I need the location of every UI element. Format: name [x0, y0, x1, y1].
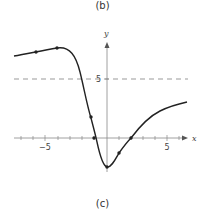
y-axis-arrow-icon: [105, 42, 110, 48]
point: [105, 165, 108, 168]
x-tick-label-5: 5: [164, 143, 169, 152]
point: [89, 115, 92, 118]
point: [117, 151, 120, 154]
point: [129, 136, 132, 139]
point: [92, 136, 95, 139]
x-tick-label-neg5: −5: [39, 143, 51, 152]
point: [55, 46, 58, 49]
y-tick-label-5: 5: [96, 75, 101, 84]
y-axis-label: y: [103, 29, 109, 38]
x-axis-arrow-icon: [182, 136, 188, 141]
point: [34, 50, 37, 53]
caption-bottom: (c): [0, 198, 205, 209]
x-axis-label: x: [192, 134, 197, 143]
chart: −5 5 5 x y: [0, 0, 205, 220]
